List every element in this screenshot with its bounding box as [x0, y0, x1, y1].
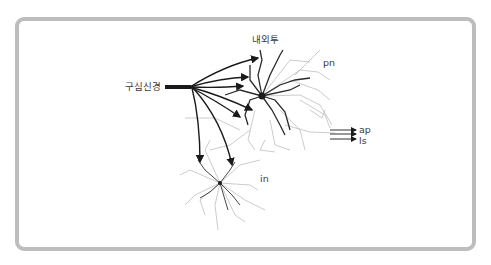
label-output-ap: ap: [359, 125, 371, 135]
projection-neuron-dendrites: [225, 50, 310, 135]
label-output-ls: ls: [359, 136, 367, 146]
label-top-structure: 내외투: [252, 35, 279, 45]
afferent-nerve-bar: [165, 85, 191, 89]
interneuron-dendrites: [198, 160, 240, 210]
projection-neuron-soma: [259, 93, 266, 100]
neuron-diagram: [0, 0, 491, 265]
label-interneuron: in: [260, 174, 269, 184]
afferent-arrows: [190, 58, 258, 165]
label-projection-neuron: pn: [323, 58, 335, 68]
output-arrows: [330, 130, 356, 139]
label-afferent-nerve: 구심신경: [125, 82, 161, 92]
interneuron-soma: [218, 181, 222, 185]
